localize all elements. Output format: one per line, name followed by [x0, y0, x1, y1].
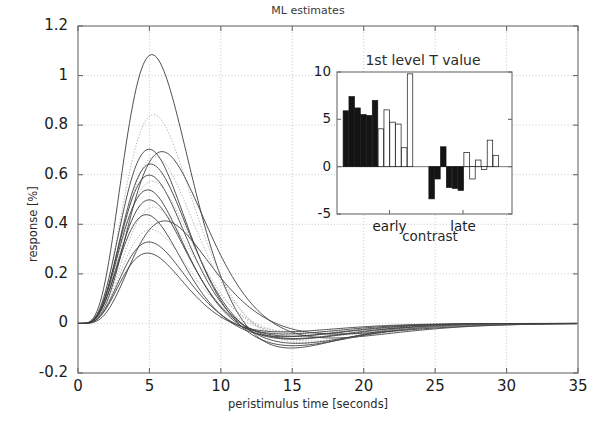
x-tick-label: 0: [58, 377, 98, 395]
inset-bar: [390, 122, 395, 166]
inset-bar: [396, 124, 401, 167]
inset-bar: [401, 148, 406, 167]
page-title: ML estimates: [0, 4, 616, 17]
inset-bar: [470, 167, 475, 179]
hrf-curve: [78, 229, 577, 332]
x-tick-label: 30: [487, 377, 527, 395]
inset-bar: [458, 167, 463, 191]
inset-y-tick-label: 0: [297, 158, 331, 174]
inset-bar: [372, 100, 377, 166]
inset-bar: [407, 74, 412, 167]
inset-y-tick-label: 10: [297, 63, 331, 79]
y-tick-label: 0.6: [8, 165, 68, 183]
inset-title: 1st level T value: [308, 52, 538, 68]
inset-bar: [361, 115, 366, 167]
x-tick-label: 15: [272, 377, 312, 395]
inset-bar: [476, 160, 481, 167]
inset-y-tick-label: -5: [297, 205, 331, 221]
inset-bar: [366, 116, 371, 167]
inset-bar: [429, 167, 434, 199]
y-tick-label: 0: [8, 313, 68, 331]
inset-bar: [481, 167, 486, 170]
x-tick-label: 10: [201, 377, 241, 395]
inset-x-tick-label: late: [428, 218, 498, 234]
inset-bar: [446, 167, 451, 188]
inset-x-tick-label: early: [355, 218, 425, 234]
y-tick-label: 0.2: [8, 264, 68, 282]
inset-bar: [355, 108, 360, 167]
inset-panel: [337, 72, 512, 214]
x-tick-label: 25: [415, 377, 455, 395]
y-tick-label: 1: [8, 66, 68, 84]
inset-bar: [384, 110, 389, 167]
x-axis-title: peristimulus time [seconds]: [0, 397, 616, 411]
x-tick-label: 5: [129, 377, 169, 395]
inset-bar: [349, 97, 354, 167]
inset-bar: [441, 147, 446, 167]
inset-bar: [378, 129, 383, 167]
inset-bar: [452, 167, 457, 189]
y-tick-label: 0.4: [8, 214, 68, 232]
inset-bar: [435, 167, 440, 179]
figure-container: ML estimates response [%] peristimulus t…: [0, 0, 616, 422]
inset-bar: [343, 111, 348, 167]
hrf-curve: [78, 253, 577, 332]
inset-bar: [493, 155, 498, 166]
inset-bar: [464, 152, 469, 166]
hrf-curve: [78, 242, 577, 334]
y-tick-label: 1.2: [8, 16, 68, 34]
inset-y-tick-label: 5: [297, 110, 331, 126]
x-tick-label: 20: [344, 377, 384, 395]
x-tick-label: 35: [558, 377, 598, 395]
inset-bar: [487, 140, 492, 167]
y-tick-label: 0.8: [8, 115, 68, 133]
